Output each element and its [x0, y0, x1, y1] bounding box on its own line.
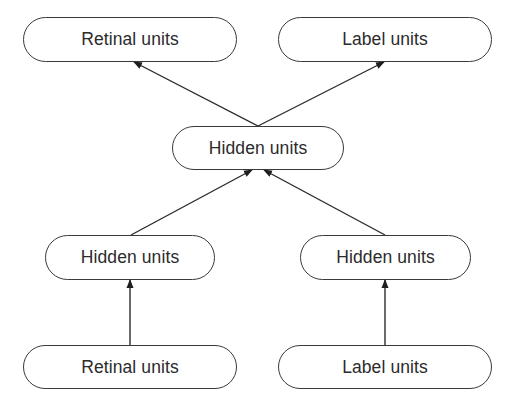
node-label: Retinal units — [81, 357, 179, 378]
arrow-hidden-center-to-retinal-top — [134, 62, 258, 126]
node-retinal-units-bottom: Retinal units — [23, 345, 237, 389]
diagram-canvas: Retinal units Label units Hidden units H… — [0, 0, 516, 413]
node-label: Retinal units — [81, 29, 179, 50]
node-label-units-top: Label units — [278, 17, 492, 62]
node-retinal-units-top: Retinal units — [23, 17, 237, 62]
node-label: Hidden units — [209, 138, 307, 159]
node-label-units-bottom: Label units — [278, 345, 492, 389]
node-label: Hidden units — [336, 247, 434, 268]
node-hidden-units-left: Hidden units — [45, 235, 215, 280]
arrow-hidden-right-to-hidden-center — [264, 170, 385, 235]
node-label: Label units — [342, 29, 428, 50]
node-hidden-units-right: Hidden units — [300, 235, 471, 280]
node-label: Label units — [342, 357, 428, 378]
arrow-hidden-center-to-label-top — [258, 62, 384, 126]
node-label: Hidden units — [81, 247, 179, 268]
node-hidden-units-center: Hidden units — [172, 126, 344, 170]
arrow-hidden-left-to-hidden-center — [131, 170, 252, 235]
